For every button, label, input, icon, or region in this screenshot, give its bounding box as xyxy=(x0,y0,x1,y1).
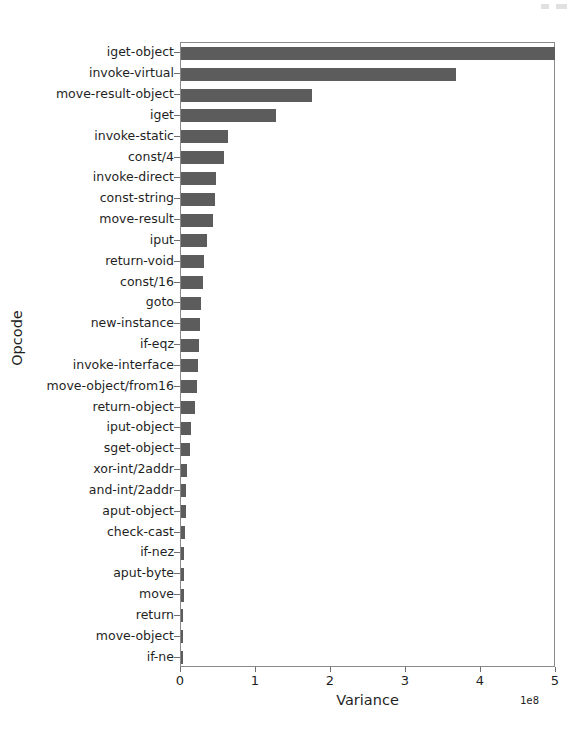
bar xyxy=(181,609,183,622)
y-axis-tick-label: xor-int/2addr xyxy=(0,462,174,475)
y-axis-tick-label: new-instance xyxy=(0,316,174,329)
y-axis-tick-label: aput-byte xyxy=(0,566,174,579)
x-axis-title: Variance xyxy=(180,692,555,708)
bar xyxy=(181,47,555,60)
y-axis-tick-label: iget-object xyxy=(0,45,174,58)
bar xyxy=(181,651,183,664)
bar xyxy=(181,130,228,143)
bar xyxy=(181,339,199,352)
bars-layer xyxy=(181,43,554,666)
y-axis-tick-label: check-cast xyxy=(0,525,174,538)
y-axis-tick-label: iget xyxy=(0,108,174,121)
bar xyxy=(181,172,216,185)
bar xyxy=(181,443,190,456)
y-axis-tick-label: if-nez xyxy=(0,545,174,558)
x-axis-tick-mark xyxy=(255,667,256,672)
bar xyxy=(181,318,200,331)
y-axis-tick-label: const/16 xyxy=(0,275,174,288)
y-axis-tick-label: iput xyxy=(0,233,174,246)
x-axis-tick-mark xyxy=(555,667,556,672)
y-axis-tick-label: move-object/from16 xyxy=(0,379,174,392)
x-axis-tick-mark xyxy=(180,667,181,672)
bar xyxy=(181,276,203,289)
y-axis-tick-label: iput-object xyxy=(0,420,174,433)
y-axis-tick-label: if-ne xyxy=(0,650,174,663)
bar xyxy=(181,630,183,643)
bar xyxy=(181,234,207,247)
bar xyxy=(181,89,312,102)
bar xyxy=(181,255,204,268)
bar-chart-figure: Opcode iget-objectinvoke-virtualmove-res… xyxy=(0,0,582,740)
plot-area xyxy=(180,42,555,667)
y-axis-tick-label: invoke-direct xyxy=(0,170,174,183)
x-axis-tick-label: 0 xyxy=(160,673,200,688)
y-axis-tick-label: const-string xyxy=(0,191,174,204)
y-axis-tick-label: and-int/2addr xyxy=(0,483,174,496)
y-axis-tick-label: move-result xyxy=(0,212,174,225)
x-axis-tick-mark xyxy=(405,667,406,672)
x-axis-tick-label: 3 xyxy=(385,673,425,688)
x-axis-offset-text: 1e8 xyxy=(520,694,578,706)
y-axis-tick-label: sget-object xyxy=(0,441,174,454)
bar xyxy=(181,68,456,81)
bar xyxy=(181,547,184,560)
bar xyxy=(181,401,195,414)
y-axis-tick-label: return-object xyxy=(0,400,174,413)
y-axis-tick-label: return xyxy=(0,608,174,621)
y-axis-tick-label: if-eqz xyxy=(0,337,174,350)
y-axis-tick-labels: iget-objectinvoke-virtualmove-result-obj… xyxy=(0,42,174,667)
bar xyxy=(181,568,184,581)
x-axis-tick-labels: 012345 xyxy=(180,673,555,691)
bar xyxy=(181,505,186,518)
bar xyxy=(181,193,215,206)
y-axis-tick-label: const/4 xyxy=(0,150,174,163)
x-axis-tick-mark xyxy=(330,667,331,672)
y-axis-tick-label: aput-object xyxy=(0,504,174,517)
bar xyxy=(181,359,198,372)
bar xyxy=(181,297,201,310)
y-axis-tick-label: move-object xyxy=(0,629,174,642)
bar xyxy=(181,484,186,497)
x-axis-tick-label: 5 xyxy=(535,673,575,688)
x-axis-tick-marks xyxy=(180,667,555,672)
y-axis-tick-label: goto xyxy=(0,295,174,308)
scan-artifact xyxy=(541,4,567,9)
bar xyxy=(181,214,213,227)
y-axis-tick-label: invoke-interface xyxy=(0,358,174,371)
bar xyxy=(181,526,185,539)
y-axis-tick-label: move-result-object xyxy=(0,87,174,100)
x-axis-tick-mark xyxy=(480,667,481,672)
bar xyxy=(181,109,276,122)
bar xyxy=(181,380,197,393)
y-axis-tick-label: return-void xyxy=(0,254,174,267)
x-axis-tick-label: 4 xyxy=(460,673,500,688)
bar xyxy=(181,464,187,477)
y-axis-tick-label: invoke-static xyxy=(0,129,174,142)
x-axis-tick-label: 2 xyxy=(310,673,350,688)
bar xyxy=(181,589,184,602)
bar xyxy=(181,151,224,164)
x-axis-tick-label: 1 xyxy=(235,673,275,688)
bar xyxy=(181,422,191,435)
y-axis-tick-label: move xyxy=(0,587,174,600)
y-axis-tick-label: invoke-virtual xyxy=(0,66,174,79)
